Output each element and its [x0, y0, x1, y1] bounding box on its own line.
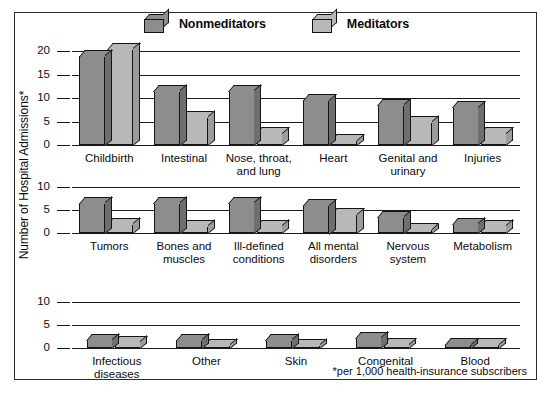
bar-nonmeditators — [303, 205, 329, 233]
y-axis-tick-label: 10 — [24, 92, 50, 104]
bar-side-face — [105, 196, 112, 234]
x-axis-category-label: Other — [156, 355, 258, 368]
bar-meditators — [406, 229, 432, 233]
x-axis-category-label: Childbirth — [66, 152, 153, 165]
y-axis-tick — [57, 145, 70, 146]
legend-entry: Nonmeditators — [144, 14, 266, 33]
bar-meditators — [204, 345, 230, 348]
bar-nonmeditators — [229, 203, 255, 233]
bar-nonmeditators — [453, 107, 479, 145]
bar-swatch-3d-icon — [144, 14, 170, 33]
gridline — [72, 302, 520, 303]
bar-nonmeditators — [445, 344, 471, 348]
chart-footnote: *per 1,000 health-insurance subscribers — [333, 365, 527, 377]
bar-meditators — [473, 344, 499, 348]
bar-nonmeditators — [378, 217, 404, 233]
bar-swatch-3d-icon — [312, 14, 338, 33]
y-axis-label: Number of Hospital Admissions* — [17, 55, 31, 295]
x-axis-category-label: All mental disorders — [290, 240, 377, 266]
bar-nonmeditators — [266, 340, 292, 348]
gridline — [72, 145, 520, 146]
x-axis-category-label: Bones and muscles — [141, 240, 228, 266]
legend-entry: Meditators — [312, 14, 409, 33]
x-axis-category-label: Heart — [290, 152, 377, 165]
bar-side-face — [404, 99, 411, 146]
legend-label: Meditators — [347, 17, 409, 31]
x-axis-category-label: Tumors — [66, 240, 153, 253]
bar-side-face — [432, 115, 439, 146]
y-axis-tick-label: 10 — [24, 296, 50, 308]
y-axis-tick — [57, 187, 70, 188]
y-axis-tick — [57, 98, 70, 99]
gridline — [72, 210, 520, 211]
chart-figure: NonmeditatorsMeditators Number of Hospit… — [0, 0, 553, 396]
legend-label: Nonmeditators — [179, 17, 266, 31]
bar-nonmeditators — [79, 203, 105, 233]
bar-side-face — [329, 94, 336, 146]
gridline — [72, 187, 520, 188]
y-axis-tick-label: 20 — [24, 45, 50, 57]
y-axis-tick-label: 0 — [24, 342, 50, 354]
y-axis-tick — [57, 302, 70, 303]
bar-nonmeditators — [154, 91, 180, 145]
chart-legend: NonmeditatorsMeditators — [0, 14, 553, 33]
x-axis-category-label: Ill-defined conditions — [215, 240, 302, 266]
bar-side-face — [329, 199, 336, 234]
bar-nonmeditators — [176, 340, 202, 348]
y-axis-tick-label: 0 — [24, 139, 50, 151]
x-axis-category-label: Injuries — [439, 152, 526, 165]
y-axis-tick-label: 15 — [24, 69, 50, 81]
bar-nonmeditators — [154, 203, 180, 233]
y-axis-tick — [57, 75, 70, 76]
bar-nonmeditators — [87, 340, 113, 348]
gridline — [72, 233, 520, 234]
bar-meditators — [294, 345, 320, 348]
bar-side-face — [133, 42, 140, 146]
bar-nonmeditators — [356, 338, 382, 348]
x-axis-category-label: Skin — [245, 355, 347, 368]
bar-side-face — [180, 84, 187, 146]
x-axis-category-label: Genital and urinary — [365, 152, 452, 178]
bar-side-face — [254, 196, 261, 234]
bar-meditators — [384, 344, 410, 348]
y-axis-tick-label: 5 — [24, 319, 50, 331]
y-axis-tick — [57, 51, 70, 52]
gridline — [72, 325, 520, 326]
x-axis-category-label: Nervous system — [365, 240, 452, 266]
y-axis-tick-label: 5 — [24, 204, 50, 216]
bar-nonmeditators — [229, 91, 255, 145]
bar-nonmeditators — [453, 224, 479, 233]
bar-nonmeditators — [79, 56, 105, 145]
y-axis-tick — [57, 325, 70, 326]
bar-nonmeditators — [303, 100, 329, 145]
bar-side-face — [208, 110, 215, 146]
y-axis-tick — [57, 122, 70, 123]
bar-side-face — [105, 49, 112, 146]
y-axis-tick-label: 10 — [24, 181, 50, 193]
bar-nonmeditators — [378, 105, 404, 145]
x-axis-category-label: Metabolism — [439, 240, 526, 253]
x-axis-category-label: Nose, throat, and lung — [215, 152, 302, 178]
x-axis-category-label: Intestinal — [141, 152, 228, 165]
y-axis-tick — [57, 233, 70, 234]
bar-side-face — [254, 84, 261, 146]
bar-side-face — [180, 196, 187, 234]
y-axis-tick — [57, 210, 70, 211]
x-axis-category-label: Infectious diseases — [66, 355, 168, 381]
y-axis-tick-label: 5 — [24, 116, 50, 128]
bar-side-face — [478, 101, 485, 146]
y-axis-tick-label: 0 — [24, 227, 50, 239]
y-axis-tick — [57, 348, 70, 349]
